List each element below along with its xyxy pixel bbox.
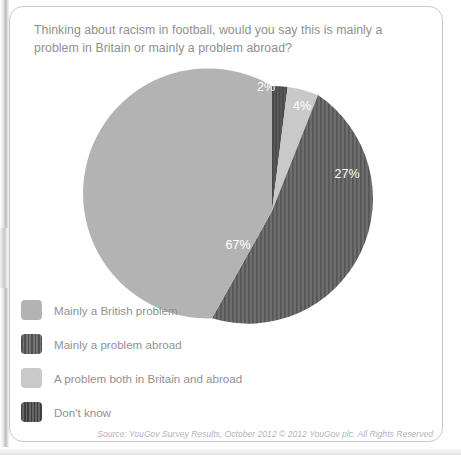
legend-label-problem-abroad: Mainly a problem abroad (54, 338, 182, 351)
legend-swatch-british-problem (21, 300, 42, 320)
legend-swatch-problem-abroad (21, 334, 42, 354)
chart-legend: Mainly a British problem Mainly a proble… (21, 293, 351, 429)
source-footnote: Source: YouGov Survey Results, October 2… (97, 429, 433, 439)
screenshot-root: Thinking about racism in football, would… (0, 0, 461, 455)
legend-item-dont-know[interactable]: Don't know (21, 395, 351, 429)
page-bottom-edge-artifact (0, 447, 461, 455)
legend-label-dont-know: Don't know (54, 406, 111, 419)
legend-item-british-problem[interactable]: Mainly a British problem (21, 293, 351, 327)
legend-item-problem-abroad[interactable]: Mainly a problem abroad (21, 327, 351, 361)
legend-label-british-problem: Mainly a British problem (54, 304, 178, 317)
legend-swatch-dont-know (21, 402, 42, 422)
page-left-edge-shadow (0, 228, 8, 288)
legend-swatch-problem-both (21, 368, 42, 388)
legend-item-problem-both[interactable]: A problem both in Britain and abroad (21, 361, 351, 395)
legend-label-problem-both: A problem both in Britain and abroad (54, 372, 242, 385)
chart-question-title: Thinking about racism in football, would… (34, 21, 424, 57)
